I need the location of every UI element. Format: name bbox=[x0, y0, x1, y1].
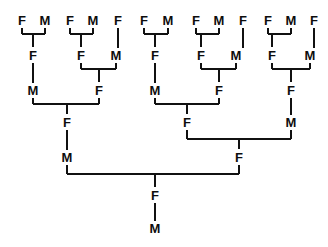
node-g2n4-female: F bbox=[151, 49, 159, 62]
node-g3n5-female: F bbox=[287, 84, 295, 97]
node-g1n2-male: M bbox=[40, 14, 51, 27]
node-g2n3-male: M bbox=[111, 49, 122, 62]
node-g1n7-male: M bbox=[163, 14, 174, 27]
node-g1n1-female: F bbox=[18, 14, 26, 27]
pedigree-chart: FMFMFFMFMFFMFFFMFFMFMMFMFFFFMMFFM bbox=[0, 0, 328, 247]
node-g1n12-male: M bbox=[286, 14, 297, 27]
node-g3n3-male: M bbox=[150, 84, 161, 97]
node-g3n2-female: F bbox=[95, 84, 103, 97]
node-g1n5-female: F bbox=[114, 14, 122, 27]
node-g2n7-female: F bbox=[268, 49, 276, 62]
node-g2n6-male: M bbox=[231, 49, 242, 62]
node-g1n13-female: F bbox=[310, 14, 318, 27]
node-g5n2-female: F bbox=[235, 151, 243, 164]
pedigree-node-layer: FMFMFFMFMFFMFFFMFFMFMMFMFFFFMMFFM bbox=[0, 0, 328, 247]
node-g4n2-female: F bbox=[183, 116, 191, 129]
node-g1n9-male: M bbox=[214, 14, 225, 27]
node-g2n8-male: M bbox=[305, 49, 316, 62]
node-g6n1-female: F bbox=[151, 189, 159, 202]
node-g2n5-female: F bbox=[197, 49, 205, 62]
node-g3n1-male: M bbox=[28, 84, 39, 97]
node-g1n4-male: M bbox=[88, 14, 99, 27]
node-g1n3-female: F bbox=[66, 14, 74, 27]
node-g1n11-female: F bbox=[264, 14, 272, 27]
node-g4n3-male: M bbox=[286, 116, 297, 129]
node-g1n6-female: F bbox=[140, 14, 148, 27]
node-g7n1-male: M bbox=[150, 222, 161, 235]
node-g1n8-female: F bbox=[192, 14, 200, 27]
node-g3n4-female: F bbox=[215, 84, 223, 97]
node-g2n1-female: F bbox=[29, 49, 37, 62]
node-g4n1-female: F bbox=[63, 116, 71, 129]
node-g5n1-male: M bbox=[62, 151, 73, 164]
node-g1n10-female: F bbox=[239, 14, 247, 27]
node-g2n2-female: F bbox=[77, 49, 85, 62]
